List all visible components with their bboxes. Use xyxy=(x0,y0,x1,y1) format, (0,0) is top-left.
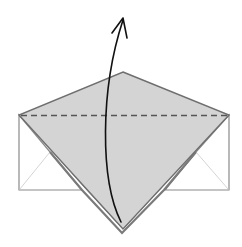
diagram-canvas xyxy=(0,0,242,247)
origami-diagram xyxy=(0,0,242,247)
